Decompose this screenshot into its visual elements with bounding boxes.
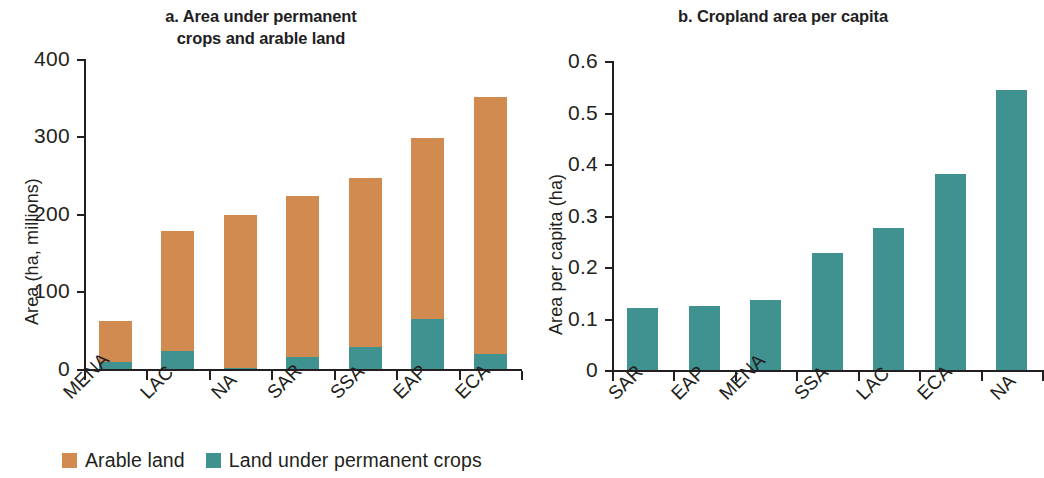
panel-a-bar-lac-arable: [161, 231, 194, 351]
panel-b-bar-lac: [873, 228, 904, 370]
panel-a-area-under-crops: a. Area under permanent crops and arable…: [0, 0, 522, 478]
legend-swatch-permanent-crops-icon: [206, 453, 221, 468]
panel-b-y-tick-label-0: 0: [528, 358, 598, 382]
panel-b-x-label-mena: MENA: [715, 350, 770, 405]
panel-a-y-tick-100: [77, 291, 85, 293]
panel-a-bar-eca-arable: [474, 97, 507, 354]
panel-a-y-tick-label-0: 0: [10, 357, 70, 381]
panel-a-y-tick-label-100: 100: [10, 279, 70, 303]
panel-b-cropland-per-capita: b. Cropland area per capita Area per cap…: [522, 0, 1044, 478]
legend-label-permanent-crops: Land under permanent crops: [229, 449, 482, 472]
panel-a-y-tick-label-300: 300: [10, 124, 70, 148]
legend-label-arable-land: Arable land: [85, 449, 185, 472]
panel-b-y-tick-label-0-6: 0.6: [528, 49, 598, 73]
panel-b-y-tick-label-0-5: 0.5: [528, 101, 598, 125]
legend-swatch-arable-land-icon: [62, 453, 77, 468]
panel-a-bar-eap-arable: [411, 138, 444, 319]
panel-a-bar-sar-arable: [286, 196, 319, 357]
panel-b-y-tick-0-1: [605, 319, 613, 321]
panel-b-y-tick-label-0-1: 0.1: [528, 307, 598, 331]
panel-a-bar-ssa-arable: [349, 178, 382, 347]
panel-b-bar-na: [996, 90, 1027, 370]
panel-a-y-tick-200: [77, 214, 85, 216]
panel-a-x-axis-line: [84, 369, 522, 371]
legend: Arable land Land under permanent crops: [62, 449, 494, 472]
panel-b-x-label-na: NA: [986, 370, 1021, 405]
panel-b-title-line1: b. Cropland area per capita: [522, 6, 1044, 28]
panel-a-y-tick-label-200: 200: [10, 202, 70, 226]
panel-b-y-tick-label-0-3: 0.3: [528, 204, 598, 228]
panel-b-y-tick-0-2: [605, 267, 613, 269]
panel-b-y-tick-0-6: [605, 61, 613, 63]
panel-a-x-tick-2: [209, 371, 211, 380]
panel-a-y-tick-400: [77, 59, 85, 61]
panel-b-bar-eca: [935, 174, 966, 370]
panel-b-bar-ssa: [812, 253, 843, 370]
panel-a-title: a. Area under permanent crops and arable…: [0, 6, 522, 50]
panel-a-bar-na-permanent: [224, 368, 257, 369]
panel-b-y-tick-0-4: [605, 164, 613, 166]
panel-a-bar-na-arable: [224, 215, 257, 368]
panel-b-title: b. Cropland area per capita: [522, 6, 1044, 28]
panel-b-y-tick-label-0-4: 0.4: [528, 152, 598, 176]
panel-b-x-tick-6: [981, 372, 983, 381]
panel-a-y-tick-label-400: 400: [10, 47, 70, 71]
legend-entry-arable-land: Arable land: [62, 449, 185, 472]
panel-a-y-tick-300: [77, 136, 85, 138]
panel-b-y-tick-label-0-2: 0.2: [528, 255, 598, 279]
figure-two-panel-bar-charts: a. Area under permanent crops and arable…: [0, 0, 1044, 478]
legend-entry-permanent-crops: Land under permanent crops: [206, 449, 482, 472]
panel-a-title-line1: a. Area under permanent: [0, 6, 522, 28]
panel-b-y-tick-0-3: [605, 216, 613, 218]
panel-a-title-line2: crops and arable land: [0, 28, 522, 50]
panel-b-y-tick-0-5: [605, 113, 613, 115]
panel-a-x-label-na: NA: [207, 369, 242, 404]
